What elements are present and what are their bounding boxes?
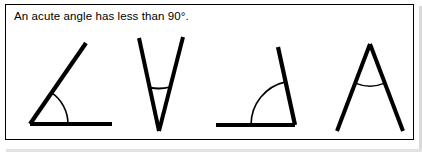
caption-text: An acute angle has less than 90°. <box>14 9 189 23</box>
figure-border <box>5 4 414 140</box>
figure-card: An acute angle has less than 90°. <box>0 0 422 152</box>
page-edge-shadow-bottom <box>6 149 422 152</box>
